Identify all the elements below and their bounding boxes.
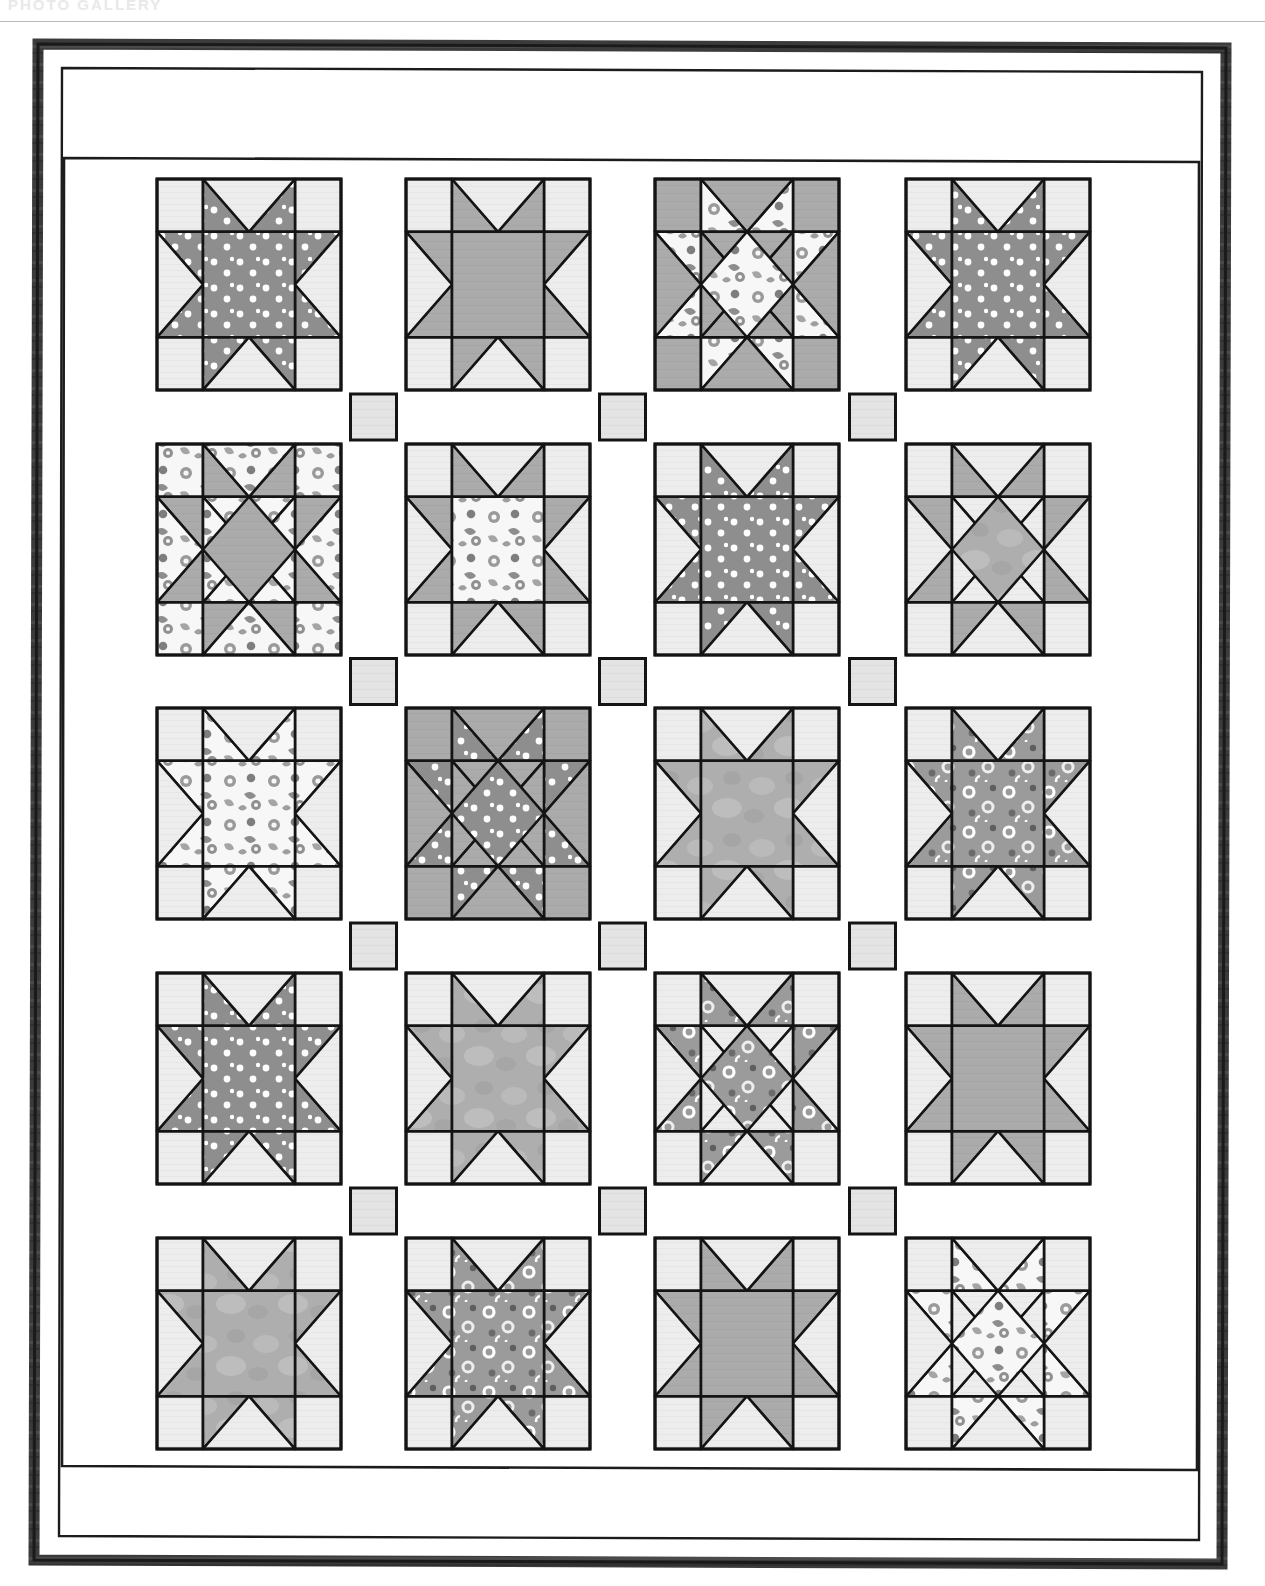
star-corner-square: [544, 337, 590, 390]
star-corner-square: [793, 1238, 839, 1291]
star-corner-square: [793, 1396, 839, 1449]
star-corner-square: [157, 866, 203, 919]
star-center-square: [452, 1026, 544, 1132]
star-corner-square: [906, 708, 952, 761]
star-corner-square: [157, 1131, 203, 1184]
star-corner-square: [544, 602, 590, 655]
star-corner-square: [544, 973, 590, 1026]
star-corner-square: [906, 1396, 952, 1449]
star-corner-square: [655, 1238, 701, 1291]
sashing-cornerstone: [351, 1188, 397, 1234]
star-corner-square: [406, 866, 452, 919]
star-corner-square: [906, 602, 952, 655]
star-corner-square: [1044, 1238, 1090, 1291]
block-r2c3[interactable]: [655, 444, 839, 655]
sashing-cornerstone: [600, 1188, 646, 1234]
sashing-cornerstone: [600, 659, 646, 705]
star-corner-square: [793, 337, 839, 390]
block-r2c2[interactable]: [406, 444, 590, 655]
star-corner-square: [157, 602, 203, 655]
star-corner-square: [1044, 708, 1090, 761]
star-corner-square: [655, 179, 701, 232]
star-corner-square: [655, 1396, 701, 1449]
star-corner-square: [157, 337, 203, 390]
star-corner-square: [793, 179, 839, 232]
star-corner-square: [295, 444, 341, 497]
block-r5c3[interactable]: [655, 1238, 839, 1449]
star-corner-square: [1044, 1131, 1090, 1184]
star-center-square: [952, 232, 1044, 338]
block-r4c4[interactable]: [906, 973, 1090, 1184]
block-r5c2[interactable]: [406, 1238, 590, 1449]
star-corner-square: [1044, 602, 1090, 655]
sashing-cornerstone: [600, 394, 646, 440]
star-center-square: [203, 1291, 295, 1397]
star-corner-square: [544, 708, 590, 761]
star-corner-square: [906, 1131, 952, 1184]
block-r2c1[interactable]: [157, 444, 341, 655]
block-r4c3[interactable]: [655, 973, 839, 1184]
page-header-band: PHOTO GALLERY: [0, 0, 1265, 22]
star-corner-square: [157, 1238, 203, 1291]
block-r5c1[interactable]: [157, 1238, 341, 1449]
block-r2c4[interactable]: [906, 444, 1090, 655]
star-corner-square: [655, 866, 701, 919]
block-r1c4[interactable]: [906, 179, 1090, 390]
star-center-square: [701, 1291, 793, 1397]
star-corner-square: [1044, 444, 1090, 497]
block-r1c3[interactable]: [655, 179, 839, 390]
star-corner-square: [1044, 179, 1090, 232]
star-center-square: [452, 497, 544, 603]
star-center-square: [952, 1026, 1044, 1132]
star-corner-square: [544, 866, 590, 919]
sashing-cornerstone: [600, 923, 646, 969]
sashing-cornerstone: [351, 394, 397, 440]
block-r3c2[interactable]: [406, 708, 590, 919]
star-corner-square: [544, 179, 590, 232]
star-corner-square: [295, 1131, 341, 1184]
star-corner-square: [1044, 1396, 1090, 1449]
star-corner-square: [655, 444, 701, 497]
star-corner-square: [544, 1396, 590, 1449]
star-corner-square: [544, 444, 590, 497]
star-corner-square: [906, 866, 952, 919]
star-corner-square: [406, 1131, 452, 1184]
star-corner-square: [793, 708, 839, 761]
block-r5c4[interactable]: [906, 1238, 1090, 1449]
star-corner-square: [295, 337, 341, 390]
star-corner-square: [295, 866, 341, 919]
block-r1c2[interactable]: [406, 179, 590, 390]
block-r1c1[interactable]: [157, 179, 341, 390]
block-r4c2[interactable]: [406, 973, 590, 1184]
star-corner-square: [406, 179, 452, 232]
block-r3c3[interactable]: [655, 708, 839, 919]
star-center-square: [701, 761, 793, 867]
star-corner-square: [157, 1396, 203, 1449]
star-corner-square: [1044, 337, 1090, 390]
page-root: PHOTO GALLERY: [0, 0, 1265, 1586]
star-corner-square: [295, 708, 341, 761]
block-r4c1[interactable]: [157, 973, 341, 1184]
block-r3c1[interactable]: [157, 708, 341, 919]
star-corner-square: [1044, 866, 1090, 919]
star-corner-square: [655, 1131, 701, 1184]
star-center-square: [452, 232, 544, 338]
quilt-svg: [0, 22, 1265, 1586]
star-corner-square: [793, 444, 839, 497]
star-corner-square: [906, 337, 952, 390]
sashing-cornerstone: [351, 659, 397, 705]
star-corner-square: [793, 973, 839, 1026]
sashing-cornerstone: [850, 659, 896, 705]
sashing-cornerstone: [850, 1188, 896, 1234]
sashing-cornerstone: [850, 394, 896, 440]
star-corner-square: [295, 602, 341, 655]
star-corner-square: [655, 602, 701, 655]
quilt-diagram: [0, 22, 1265, 1586]
block-r3c4[interactable]: [906, 708, 1090, 919]
sashing-cornerstone: [351, 923, 397, 969]
star-corner-square: [655, 708, 701, 761]
star-corner-square: [295, 1396, 341, 1449]
star-corner-square: [793, 866, 839, 919]
star-corner-square: [295, 179, 341, 232]
star-corner-square: [906, 444, 952, 497]
